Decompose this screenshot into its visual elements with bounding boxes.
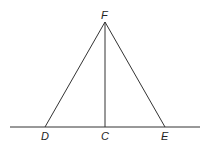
segment-fd [45, 22, 105, 127]
label-c: C [101, 130, 109, 142]
label-d: D [41, 130, 49, 142]
triangle-diagram: F D C E [0, 0, 211, 144]
label-f: F [101, 9, 109, 21]
label-e: E [161, 130, 169, 142]
segment-fe [105, 22, 165, 127]
